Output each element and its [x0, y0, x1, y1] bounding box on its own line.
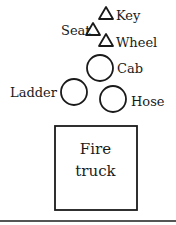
wheel-label: Wheel	[116, 36, 157, 49]
key-label: Key	[116, 9, 140, 22]
fire-truck-line1: Fire	[54, 138, 137, 160]
fire-truck-line2: truck	[54, 160, 137, 182]
ladder-label: Ladder	[10, 86, 57, 99]
ladder-circle	[61, 79, 87, 105]
bottom-divider	[0, 220, 176, 222]
seat-label: Seat	[61, 24, 91, 37]
cab-circle	[87, 55, 113, 81]
cab-label: Cab	[117, 62, 143, 75]
fire-truck-label: Fire truck	[54, 138, 137, 182]
key-triangle	[99, 7, 113, 19]
hose-label: Hose	[131, 95, 165, 108]
hose-circle	[100, 86, 126, 112]
wheel-triangle	[99, 34, 113, 46]
